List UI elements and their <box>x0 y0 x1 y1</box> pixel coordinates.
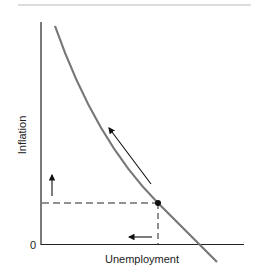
along-curve-arrow <box>109 128 151 184</box>
phillips-curve <box>55 26 217 262</box>
equilibrium-point <box>155 200 161 206</box>
x-axis-label: Unemployment <box>105 253 179 265</box>
y-axis-label: Inflation <box>16 116 28 155</box>
origin-label: 0 <box>30 239 36 251</box>
phillips-curve-diagram: 0 Unemployment Inflation <box>0 0 266 278</box>
